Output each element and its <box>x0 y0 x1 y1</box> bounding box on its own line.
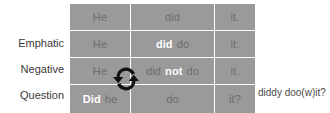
sentence-grid-cells: Hedidit.Hediddoit.Hedidnotdoit.Didhedoit… <box>70 4 253 110</box>
row-label-column: Emphatic Negative Question <box>0 4 68 110</box>
word: he <box>105 93 117 105</box>
grid-cell-r0-c2: it. <box>215 4 255 30</box>
word: did <box>165 11 180 23</box>
word: did <box>146 65 161 77</box>
row-label-question: Question <box>20 82 64 108</box>
emphasized-word: not <box>165 65 182 77</box>
grid-cell-r1-c0: He <box>70 31 130 57</box>
word: He <box>93 11 107 23</box>
word: He <box>93 65 107 77</box>
grid-cell-r2-c2: it. <box>215 58 255 84</box>
grid-cell-r0-c0: He <box>70 4 130 30</box>
grid-cell-r2-c0: He <box>70 58 130 84</box>
word: do <box>177 38 189 50</box>
pronunciation-annotation: diddy doo(w)it? <box>258 87 326 98</box>
word: it. <box>231 65 240 77</box>
grid-cell-r3-c0: Didhe <box>70 85 130 113</box>
grid-cell-r1-c2: it. <box>215 31 255 57</box>
word: do <box>166 93 178 105</box>
sentence-grid: Hedidit.Hediddoit.Hedidnotdoit.Didhedoit… <box>70 4 253 110</box>
emphasized-word: did <box>156 38 173 50</box>
row-label-emphatic: Emphatic <box>18 30 64 56</box>
grid-cell-r2-c1: didnotdo <box>131 58 214 84</box>
sentence-transformation-diagram: Emphatic Negative Question Hedidit.Hedid… <box>0 0 330 113</box>
grid-cell-r3-c2: it? <box>215 85 255 113</box>
emphasized-word: Did <box>83 93 101 105</box>
word: do <box>186 65 198 77</box>
grid-cell-r1-c1: diddo <box>131 31 214 57</box>
word: it. <box>231 38 240 50</box>
word: He <box>93 38 107 50</box>
row-label-negative: Negative <box>21 56 64 82</box>
word: it. <box>231 11 240 23</box>
word: it? <box>229 93 241 105</box>
grid-cell-r0-c1: did <box>131 4 214 30</box>
grid-cell-r3-c1: do <box>131 85 214 113</box>
